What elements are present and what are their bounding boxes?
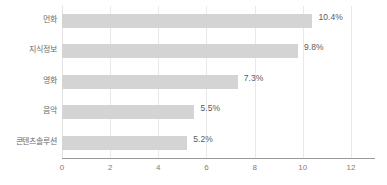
bar-value-label: 5.5% [200, 103, 220, 113]
category-label: 지식정보 [0, 43, 57, 54]
category-label: 음악 [0, 104, 57, 115]
bar [62, 75, 238, 89]
bar-row: 5.5% [62, 100, 375, 125]
bar-value-label: 7.3% [244, 73, 264, 83]
bar-value-label: 5.2% [193, 134, 213, 144]
x-tick-label-6: 6 [204, 163, 208, 172]
bar-value-label: 9.8% [304, 42, 324, 52]
bar-value-label: 10.4% [318, 12, 343, 22]
x-tick-label-10: 10 [298, 163, 307, 172]
x-tick-label-0: 0 [60, 163, 64, 172]
x-tick-label-8: 8 [252, 163, 256, 172]
bar-row: 7.3% [62, 70, 375, 95]
bar [62, 105, 194, 119]
bar [62, 136, 187, 150]
bar-row: 5.2% [62, 131, 375, 156]
plot-area: 10.4%9.8%7.3%5.5%5.2% [62, 6, 375, 158]
category-label: 콘텐츠솔루션 [0, 135, 57, 146]
x-tick-label-4: 4 [156, 163, 160, 172]
bar-chart: 먼화지식정보영화음악콘텐츠솔루션 10.4%9.8%7.3%5.5%5.2% 0… [0, 0, 387, 185]
bar-row: 10.4% [62, 9, 375, 34]
x-tick-label-12: 12 [346, 163, 355, 172]
bar [62, 44, 298, 58]
category-label: 영화 [0, 74, 57, 85]
x-axis-line [62, 158, 375, 159]
category-label: 먼화 [0, 13, 57, 24]
bar-row: 9.8% [62, 39, 375, 64]
category-axis: 먼화지식정보영화음악콘텐츠솔루션 [0, 6, 57, 158]
x-tick-label-2: 2 [108, 163, 112, 172]
bar [62, 14, 312, 28]
